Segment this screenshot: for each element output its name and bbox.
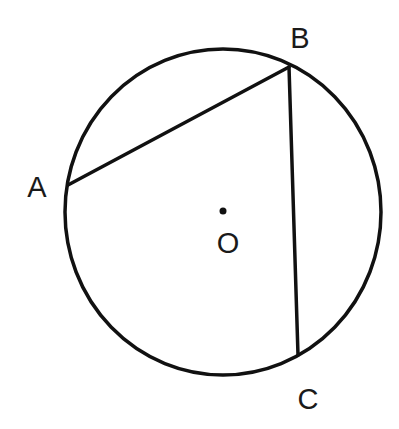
point-label-b: B — [290, 22, 309, 54]
center-label-o: O — [217, 227, 240, 259]
point-label-c: C — [298, 383, 319, 415]
chord-ab — [68, 67, 289, 185]
chord-bc — [289, 67, 298, 355]
diagram-canvas: A B C O — [0, 0, 399, 429]
circle-diagram: A B C O — [0, 0, 399, 429]
point-label-a: A — [27, 171, 47, 203]
center-point-o — [220, 208, 227, 215]
